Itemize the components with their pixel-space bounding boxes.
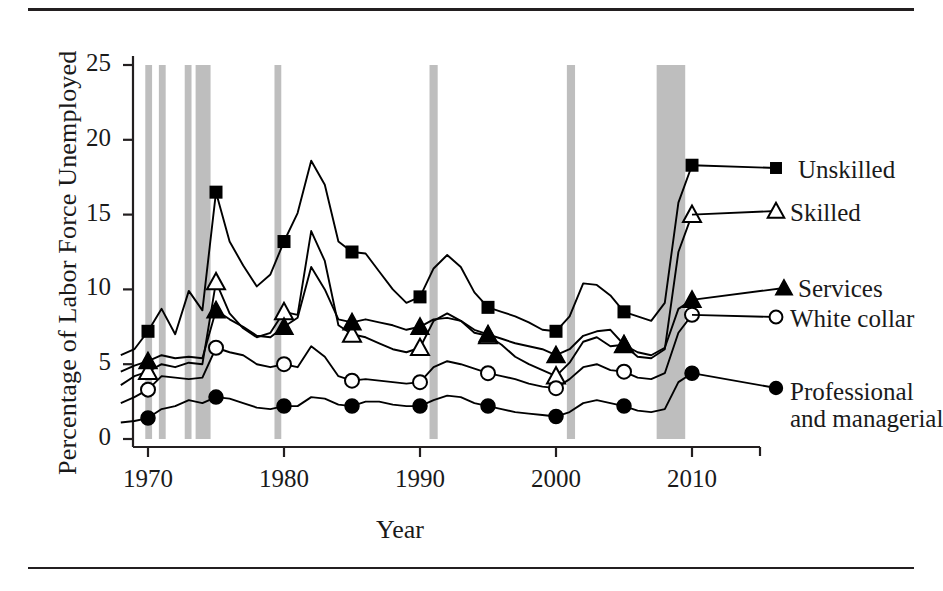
x-tick-label: 1980 bbox=[244, 465, 324, 493]
legend-label-professional: Professional and managerial bbox=[790, 378, 943, 432]
legend-leader-line bbox=[692, 211, 776, 215]
legend-leader-line bbox=[692, 315, 776, 317]
x-tick-label: 1990 bbox=[380, 465, 460, 493]
y-tick-label: 5 bbox=[71, 348, 111, 376]
legend-leader-line bbox=[692, 165, 776, 168]
legend-leader-lines bbox=[692, 165, 784, 388]
series-marker-filled-circle bbox=[141, 411, 155, 425]
legend-label-white-collar: White collar bbox=[790, 305, 914, 332]
legend-label-skilled: Skilled bbox=[790, 199, 861, 226]
x-tick-label: 1970 bbox=[108, 465, 188, 493]
recession-band bbox=[567, 65, 575, 439]
series-marker-open-circle bbox=[345, 374, 359, 388]
series-marker-filled-square bbox=[210, 186, 223, 199]
series-marker-open-circle bbox=[141, 383, 155, 397]
y-tick-label: 25 bbox=[71, 49, 111, 77]
legend-leader-line bbox=[692, 373, 776, 388]
series-marker-open-circle bbox=[277, 357, 291, 371]
series-marker-open-circle bbox=[617, 365, 631, 379]
x-tick-label: 2000 bbox=[516, 465, 596, 493]
series-marker-filled-square bbox=[770, 162, 782, 174]
y-tick-label: 10 bbox=[71, 273, 111, 301]
series-marker-filled-circle bbox=[481, 399, 495, 413]
series-marker-filled-circle bbox=[209, 390, 223, 404]
series-marker-open-circle bbox=[413, 375, 427, 389]
y-tick-label: 0 bbox=[71, 423, 111, 451]
series-marker-filled-square bbox=[346, 246, 359, 259]
series-marker-filled-circle bbox=[617, 399, 631, 413]
series-marker-open-circle bbox=[770, 311, 783, 324]
series-marker-filled-triangle bbox=[411, 318, 429, 334]
recession-band bbox=[185, 65, 192, 439]
series-marker-open-triangle bbox=[411, 339, 429, 355]
series-marker-filled-circle bbox=[277, 399, 291, 413]
legend-leader-line bbox=[692, 288, 784, 300]
legend-markers-group bbox=[768, 162, 793, 394]
series-marker-filled-square bbox=[414, 290, 427, 303]
series-marker-filled-square bbox=[278, 235, 291, 248]
series-marker-filled-square bbox=[550, 325, 563, 338]
series-marker-filled-square bbox=[482, 301, 495, 314]
series-marker-filled-triangle bbox=[776, 280, 793, 295]
series-marker-open-circle bbox=[481, 366, 495, 380]
x-tick-label: 2010 bbox=[652, 465, 732, 493]
series-marker-filled-square bbox=[618, 305, 631, 318]
recession-band bbox=[430, 65, 438, 439]
series-marker-filled-triangle bbox=[139, 352, 157, 368]
series-marker-open-circle bbox=[549, 381, 563, 395]
y-tick-label: 15 bbox=[71, 199, 111, 227]
legend-label-unskilled: Unskilled bbox=[798, 156, 895, 183]
series-marker-filled-square bbox=[142, 325, 155, 338]
series-marker-filled-circle bbox=[345, 399, 359, 413]
series-marker-open-triangle bbox=[768, 203, 785, 218]
y-tick-label: 20 bbox=[71, 124, 111, 152]
series-marker-filled-circle bbox=[549, 410, 563, 424]
series-marker-filled-triangle bbox=[547, 346, 565, 362]
series-marker-filled-circle bbox=[770, 382, 783, 395]
legend-label-services: Services bbox=[798, 275, 883, 302]
series-marker-filled-circle bbox=[413, 399, 427, 413]
series-marker-open-circle bbox=[209, 341, 223, 355]
recession-band bbox=[159, 65, 166, 439]
